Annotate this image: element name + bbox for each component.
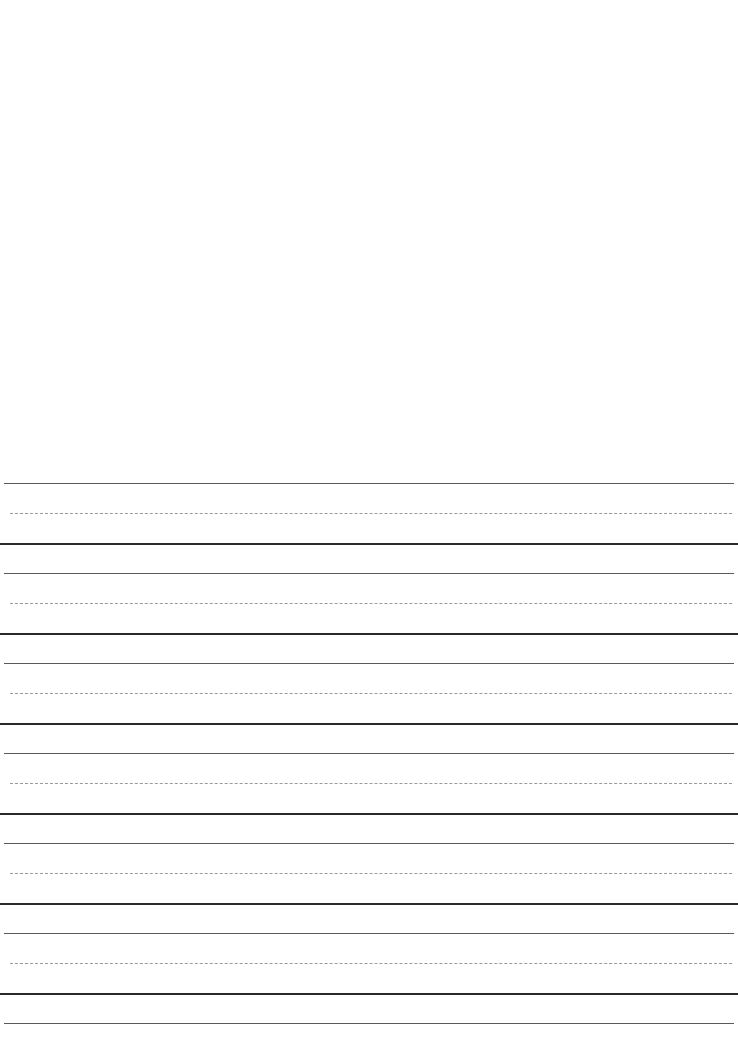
mid-line xyxy=(10,513,732,514)
base-line xyxy=(0,633,738,635)
base-line xyxy=(0,813,738,815)
base-line xyxy=(0,993,738,995)
top-line xyxy=(4,933,734,934)
top-line xyxy=(4,483,734,484)
base-line xyxy=(0,903,738,905)
top-line xyxy=(4,843,734,844)
top-line xyxy=(4,753,734,754)
mid-line xyxy=(10,693,732,694)
mid-line xyxy=(10,783,732,784)
top-line xyxy=(4,1023,734,1024)
base-line xyxy=(0,723,738,725)
base-line xyxy=(0,543,738,545)
handwriting-lines xyxy=(0,0,738,1054)
mid-line xyxy=(10,873,732,874)
practice-sheet xyxy=(0,0,738,1054)
top-line xyxy=(4,573,734,574)
top-line xyxy=(4,663,734,664)
mid-line xyxy=(10,603,732,604)
mid-line xyxy=(10,963,732,964)
